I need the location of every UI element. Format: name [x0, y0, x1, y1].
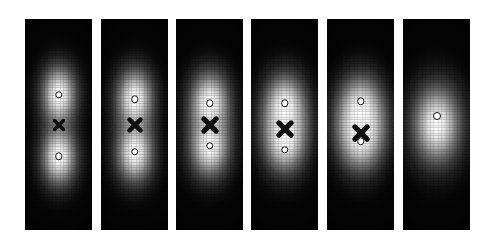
- panel-6-blob-1: [403, 40, 470, 209]
- panel-5-peak-circle-marker: [357, 98, 365, 106]
- panel-2-saddle-cross-marker: [127, 117, 143, 133]
- panel-2: [101, 19, 168, 230]
- panel-4-saddle-cross-marker: [276, 120, 294, 138]
- panel-4-blob-2: [251, 68, 318, 211]
- panel-3-blob-2: [176, 78, 243, 213]
- panel-1-blob-1: [25, 32, 92, 159]
- panel-4-vignette: [251, 19, 318, 230]
- panel-1-peak-circle-marker: [55, 152, 63, 160]
- panel-3-saddle-cross-marker: [201, 116, 219, 134]
- panel-3-vignette: [176, 19, 243, 230]
- panel-5-blob-2: [327, 59, 394, 211]
- panel-1-vignette: [25, 19, 92, 230]
- figure-root: [0, 0, 501, 245]
- panel-2-blob-2: [101, 87, 168, 218]
- panel-4-peak-circle-marker: [281, 146, 289, 154]
- panel-6-peak-circle-marker: [433, 112, 441, 120]
- panel-5-blob-1: [327, 36, 394, 188]
- panel-2-halftone-texture: [101, 19, 168, 230]
- panel-4-halftone-texture: [251, 19, 318, 230]
- panel-6-halftone-texture: [403, 19, 470, 230]
- panel-1-blob-2: [25, 93, 92, 220]
- panel-3: [176, 19, 243, 230]
- panel-3-halftone-texture: [176, 19, 243, 230]
- panel-2-peak-circle-marker: [131, 148, 139, 156]
- panel-1: [25, 19, 92, 230]
- panel-5: [327, 19, 394, 230]
- panel-2-blob-1: [101, 34, 168, 165]
- panel-6-vignette: [403, 19, 470, 230]
- panel-5-saddle-cross-marker: [352, 124, 370, 142]
- panel-4-peak-circle-marker: [281, 100, 289, 108]
- panel-1-halftone-texture: [25, 19, 92, 230]
- panel-5-halftone-texture: [327, 19, 394, 230]
- panel-2-peak-circle-marker: [131, 95, 139, 103]
- panel-6: [403, 19, 470, 230]
- panel-5-peak-circle-marker: [357, 138, 365, 146]
- panel-1-peak-circle-marker: [55, 91, 63, 99]
- panel-3-blob-1: [176, 36, 243, 171]
- panel-4: [251, 19, 318, 230]
- panel-2-vignette: [101, 19, 168, 230]
- panel-1-saddle-cross-marker: [52, 118, 65, 131]
- panel-3-peak-circle-marker: [206, 100, 214, 108]
- panel-3-peak-circle-marker: [206, 142, 214, 150]
- panel-4-blob-1: [251, 36, 318, 179]
- panel-5-vignette: [327, 19, 394, 230]
